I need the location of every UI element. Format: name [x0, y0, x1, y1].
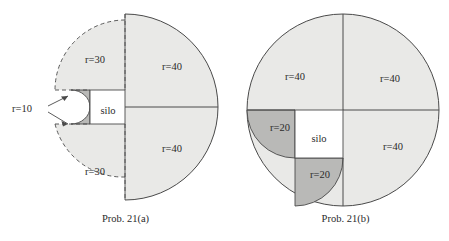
label-left-r20-b: r=20 [270, 122, 290, 133]
label-r10: r=10 [12, 103, 32, 114]
arrow-line-lower-r10 [48, 112, 68, 124]
diagram-canvas: r=30 r=30 r=40 r=40 silo r=10 r=40 r=40 … [0, 0, 449, 241]
caption-figure-a: Prob. 21(a) [68, 213, 183, 224]
label-upper-right-r40: r=40 [162, 61, 182, 72]
label-upper-right-r40-b: r=40 [380, 73, 400, 84]
label-lower-right-r40-b: r=40 [383, 141, 403, 152]
region-lower-r10-fill [71, 107, 90, 124]
figure-a-group: r=30 r=30 r=40 r=40 silo r=10 [12, 14, 218, 200]
region-upper-r10-fill [71, 90, 90, 107]
label-silo-b: silo [311, 133, 326, 144]
label-bottom-r20-b: r=20 [310, 169, 330, 180]
label-upper-left-r30: r=30 [85, 54, 105, 65]
figure-b-group: r=40 r=40 r=40 r=20 r=20 silo [247, 14, 439, 206]
label-upper-left-r40-b: r=40 [285, 71, 305, 82]
label-lower-right-r40: r=40 [162, 143, 182, 154]
label-silo-a: silo [100, 105, 115, 116]
region-left-r20-fill [247, 110, 295, 158]
problem-21-diagrams: r=30 r=30 r=40 r=40 silo r=10 r=40 r=40 … [0, 0, 449, 241]
caption-figure-b: Prob. 21(b) [288, 213, 403, 224]
label-lower-left-r30: r=30 [85, 166, 105, 177]
